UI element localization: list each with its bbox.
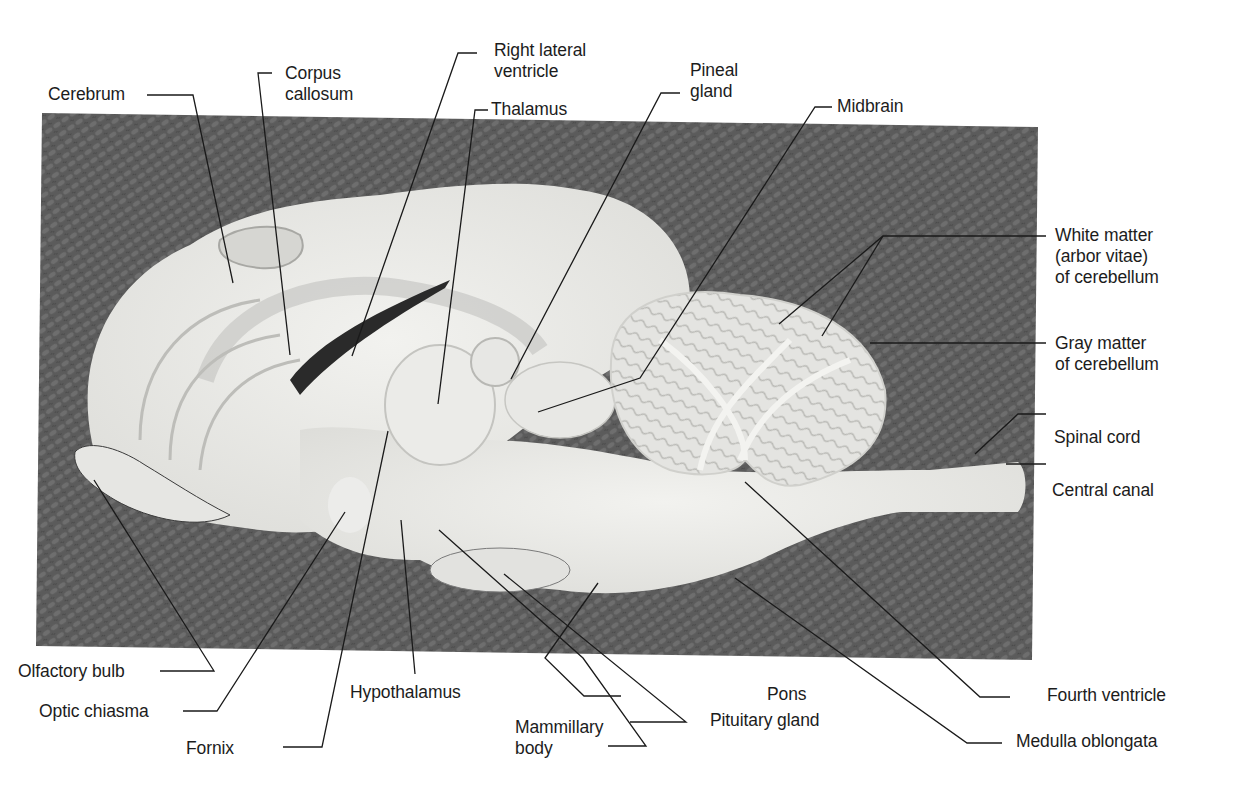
label-cerebrum: Cerebrum <box>48 84 125 105</box>
label-fornix: Fornix <box>186 738 234 759</box>
label-hypothalamus: Hypothalamus <box>350 682 461 703</box>
brain-section-figure <box>0 0 1234 798</box>
label-pineal-gland: Pineal gland <box>690 60 738 102</box>
label-pituitary-gland: Pituitary gland <box>710 710 819 731</box>
label-mammillary-body: Mammillary body <box>515 717 603 759</box>
label-medulla-oblongata: Medulla oblongata <box>1016 731 1157 752</box>
label-gray-matter: Gray matter of cerebellum <box>1055 333 1159 375</box>
label-midbrain: Midbrain <box>837 96 903 117</box>
label-central-canal: Central canal <box>1052 480 1154 501</box>
optic-chiasma-shape <box>328 477 372 533</box>
label-corpus-callosum: Corpus callosum <box>285 63 353 105</box>
midbrain-shape <box>505 362 615 438</box>
label-olfactory-bulb: Olfactory bulb <box>18 661 125 682</box>
pituitary-shape <box>430 548 570 592</box>
label-pons: Pons <box>767 684 807 705</box>
label-spinal-cord: Spinal cord <box>1054 427 1140 448</box>
label-fourth-ventricle: Fourth ventricle <box>1047 685 1166 706</box>
label-right-lateral-ventricle: Right lateral ventricle <box>494 40 586 82</box>
label-thalamus: Thalamus <box>491 99 567 120</box>
label-white-matter: White matter (arbor vitae) of cerebellum <box>1055 225 1159 288</box>
label-optic-chiasma: Optic chiasma <box>39 701 149 722</box>
